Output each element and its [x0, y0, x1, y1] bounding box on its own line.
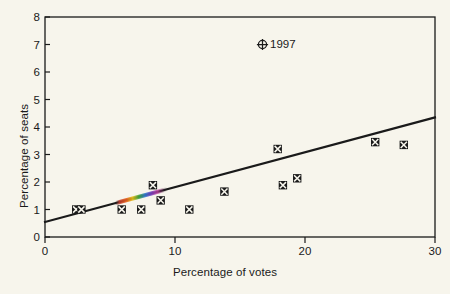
- y-tick-label: 7: [18, 39, 40, 51]
- x-tick-label: 0: [30, 245, 60, 257]
- x-axis-title: Percentage of votes: [0, 266, 450, 278]
- y-tick-label: 0: [18, 231, 40, 243]
- data-point: [137, 205, 145, 213]
- data-point: [157, 196, 165, 204]
- data-point: [274, 145, 282, 153]
- data-point: [118, 205, 126, 213]
- axes-frame: [45, 17, 435, 237]
- x-axis-ticks: [45, 237, 435, 243]
- data-point: [149, 181, 157, 189]
- annotated-point-1997: [257, 39, 268, 50]
- data-point: [185, 205, 193, 213]
- x-tick-label: 20: [290, 245, 320, 257]
- x-tick-label: 30: [420, 245, 450, 257]
- plot-canvas: [0, 0, 450, 294]
- annotation-label-1997: 1997: [270, 38, 296, 50]
- data-point: [77, 205, 85, 213]
- data-point: [400, 141, 408, 149]
- scatter-plot-figure: 0 1 2 3 4 5 6 7 8 0 10 20 30 1997 Percen…: [0, 0, 450, 294]
- data-point: [279, 181, 287, 189]
- data-point: [293, 174, 301, 182]
- y-axis-ticks: [45, 17, 50, 237]
- x-tick-label: 10: [160, 245, 190, 257]
- data-point: [371, 138, 379, 146]
- data-point: [220, 187, 228, 195]
- trend-line: [45, 117, 435, 221]
- y-tick-label: 8: [18, 11, 40, 23]
- y-tick-label: 6: [18, 66, 40, 78]
- circled-cross-icon: [257, 39, 268, 50]
- y-axis-title: Percentage of seats: [18, 104, 30, 208]
